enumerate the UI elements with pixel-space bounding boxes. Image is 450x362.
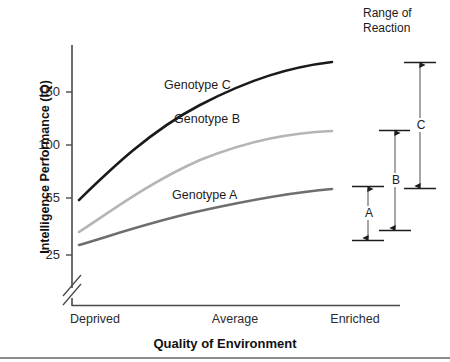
bracket-label-a: A xyxy=(358,206,380,220)
y-axis-title: Intelligence Performance (IQ) xyxy=(38,52,52,282)
series-label-genotype-c: Genotype C xyxy=(164,78,231,92)
chart-canvas xyxy=(0,0,450,362)
x-axis-title: Quality of Environment xyxy=(0,336,450,351)
x-category-enriched: Enriched xyxy=(300,312,410,326)
range-of-reaction-title: Range of Reaction xyxy=(363,6,443,36)
x-category-average: Average xyxy=(180,312,290,326)
range-of-reaction-chart: 150 100 65 25 Intelligence Performance (… xyxy=(0,0,450,362)
range-title-line-2: Reaction xyxy=(363,21,443,36)
x-category-deprived: Deprived xyxy=(40,312,150,326)
series-label-genotype-a: Genotype A xyxy=(172,188,237,202)
curve-genotype-b xyxy=(79,131,332,232)
series-label-genotype-b: Genotype B xyxy=(174,112,240,126)
bottom-divider xyxy=(0,357,450,359)
range-title-line-1: Range of xyxy=(363,6,443,21)
bracket-label-c: C xyxy=(410,118,432,132)
bracket-label-b: B xyxy=(385,173,407,187)
y-tick-marks xyxy=(66,92,72,255)
